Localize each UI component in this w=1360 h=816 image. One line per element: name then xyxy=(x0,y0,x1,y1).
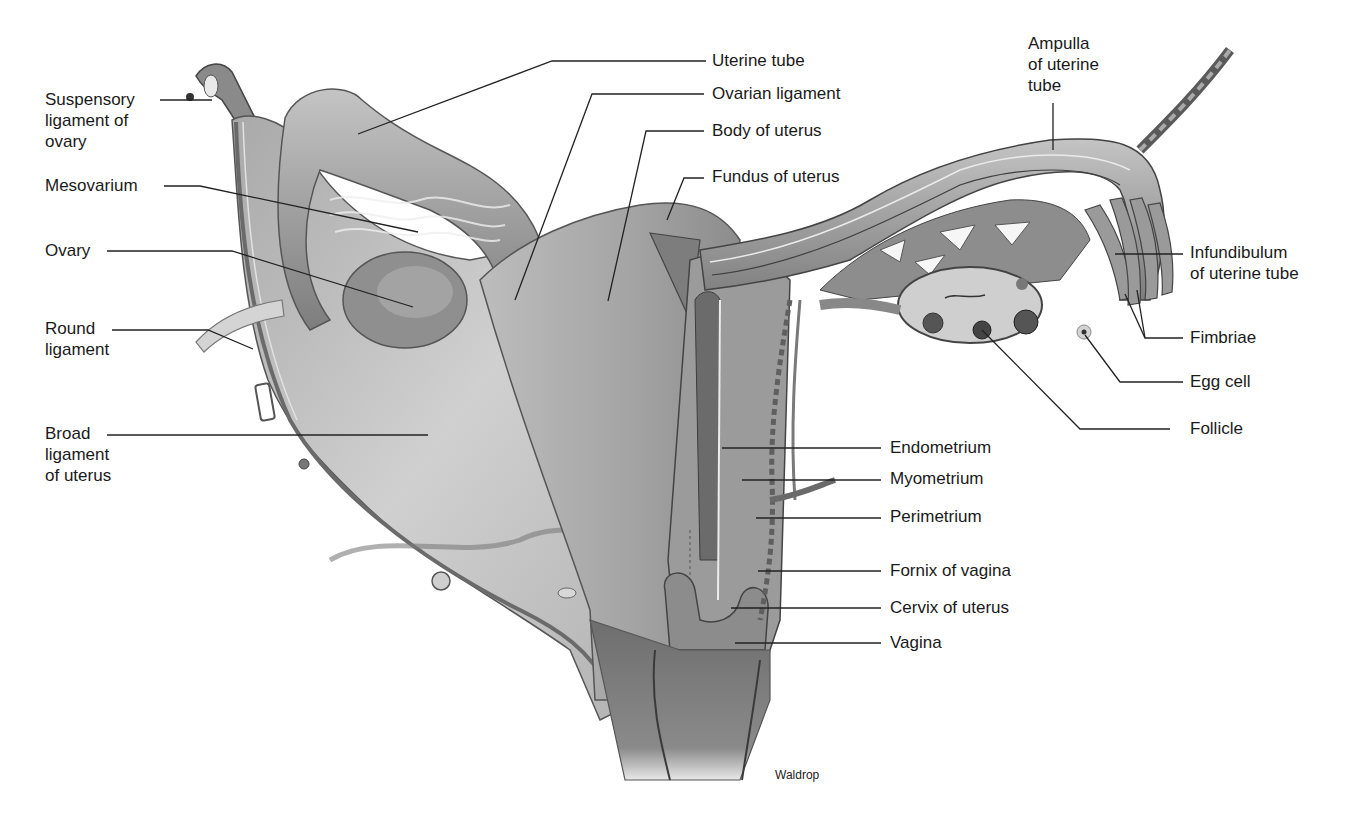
artist-credit: Waldrop xyxy=(775,768,819,782)
label-egg-cell: Egg cell xyxy=(1190,371,1250,392)
label-round-ligament: Round ligament xyxy=(45,318,109,360)
label-fornix-of-vagina: Fornix of vagina xyxy=(890,560,1011,581)
label-fimbriae: Fimbriae xyxy=(1190,327,1256,348)
label-infundibulum-of-uterine-tube: Infundibulum of uterine tube xyxy=(1190,242,1299,284)
label-vagina: Vagina xyxy=(890,632,942,653)
illustration xyxy=(0,0,1360,816)
label-ovary: Ovary xyxy=(45,240,90,261)
label-mesovarium: Mesovarium xyxy=(45,175,138,196)
label-uterine-tube: Uterine tube xyxy=(712,50,805,71)
label-myometrium: Myometrium xyxy=(890,468,984,489)
label-endometrium: Endometrium xyxy=(890,437,991,458)
label-cervix-of-uterus: Cervix of uterus xyxy=(890,597,1009,618)
uterine-cavity-shape xyxy=(695,292,720,560)
label-perimetrium: Perimetrium xyxy=(890,506,982,527)
label-broad-ligament-of-uterus: Broad ligament of uterus xyxy=(45,423,111,486)
label-body-of-uterus: Body of uterus xyxy=(712,120,822,141)
label-fundus-of-uterus: Fundus of uterus xyxy=(712,166,840,187)
label-ampulla-of-uterine-tube: Ampulla of uterine tube xyxy=(1028,33,1099,96)
label-ovarian-ligament: Ovarian ligament xyxy=(712,83,841,104)
follicle-3 xyxy=(1014,310,1038,334)
label-suspensory-ligament-of-ovary: Suspensory ligament of ovary xyxy=(45,89,135,152)
follicle-1 xyxy=(923,313,943,333)
label-follicle: Follicle xyxy=(1190,418,1243,439)
anatomy-figure: Suspensory ligament of ovary Mesovarium … xyxy=(0,0,1360,816)
